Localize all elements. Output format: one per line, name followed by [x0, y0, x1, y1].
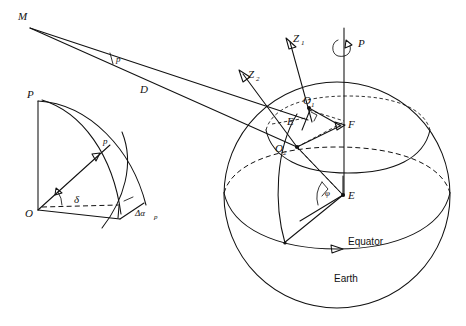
dashed-o1-to-axis	[309, 110, 344, 121]
sphere-label-z2: Z 2	[248, 68, 260, 83]
label-zenith-1: Z	[293, 32, 300, 44]
inset-outer-arc	[38, 101, 146, 205]
point-lower-e-dot	[341, 193, 345, 197]
label-latitude-angle: φ	[325, 188, 330, 198]
label-earth-centre-upper: E	[286, 115, 294, 127]
label-celestial-body: M	[17, 10, 28, 22]
inset-vertical-chord	[118, 206, 119, 218]
inset-label-right-ascension: Δα p	[134, 208, 158, 221]
diagram-canvas: M p D	[0, 0, 466, 326]
label-zenith-2: Z	[248, 68, 255, 80]
label-equator: Equator	[348, 236, 384, 247]
equator-intersection-dot	[283, 241, 286, 244]
label-observer-1: O	[303, 94, 311, 106]
point-o2-dot	[295, 145, 299, 149]
sphere-label-z1: Z 1	[293, 32, 305, 47]
label-observer-2-sub: 2	[283, 149, 287, 157]
segment-upper-e-to-o1	[302, 110, 310, 130]
inset-inner-arc	[42, 100, 121, 214]
inset-label-delta-alpha-sub: p	[153, 213, 158, 221]
earth-sphere-group	[224, 28, 450, 308]
meridian-through-o2	[278, 114, 297, 243]
label-pole: P	[357, 37, 365, 49]
label-zenith-1-sub: 1	[301, 39, 305, 47]
vector-o1-to-f	[309, 108, 341, 126]
label-observer-2: O	[275, 142, 283, 154]
parallax-diagram-figure: M p D	[0, 0, 466, 326]
label-zenith-2-sub: 2	[256, 75, 260, 83]
inset-label-declination: δ	[74, 193, 80, 205]
latitude-wedge-edge	[284, 195, 343, 243]
label-earth: Earth	[334, 273, 358, 284]
inset-parallax-arc	[102, 132, 128, 228]
inset-base-edge	[38, 210, 120, 219]
rotation-arrowhead	[345, 40, 352, 48]
label-parallax-angle: p	[115, 54, 121, 64]
latitude-wedge-lower	[300, 195, 343, 221]
inset-delta-alpha-tick	[124, 197, 133, 201]
rotation-direction-arrow	[333, 40, 351, 56]
inset-label-parallax-arc: p	[102, 136, 108, 146]
line-of-sight-o2	[30, 28, 297, 147]
label-distance: D	[139, 83, 148, 95]
inset-label-pole: P	[26, 88, 34, 100]
label-earth-centre-lower: E	[347, 189, 355, 201]
inset-spherical-sector	[38, 100, 146, 228]
zenith-line-z1	[290, 42, 312, 122]
radius-o2-to-lower-e	[297, 147, 343, 195]
label-observer-1-sub: 1	[311, 101, 315, 109]
inset-label-delta-alpha: Δα	[134, 208, 145, 218]
parallel-circle-front	[266, 130, 430, 173]
zenith-line-z2	[243, 74, 297, 147]
right-angle-marker-o1	[311, 112, 317, 121]
inset-reference-dashed	[42, 205, 119, 207]
latitude-angle-arc	[317, 182, 322, 205]
label-foot-point: F	[347, 118, 355, 130]
inset-label-origin: O	[25, 207, 33, 219]
equator-circle-front	[224, 193, 450, 249]
